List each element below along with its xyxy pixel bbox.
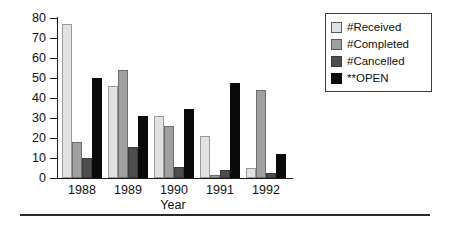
legend-label: #Completed bbox=[347, 39, 409, 51]
bar-completed-1991 bbox=[210, 175, 220, 178]
chart-page: 01020304050607080 19881989199019911992 Y… bbox=[0, 0, 450, 226]
bar-open-1989 bbox=[138, 116, 148, 178]
bar-cancelled-1992 bbox=[266, 173, 276, 178]
legend-item-open[interactable]: **OPEN bbox=[331, 70, 431, 87]
legend-item-cancelled[interactable]: #Cancelled bbox=[331, 53, 431, 70]
legend-item-received[interactable]: #Received bbox=[331, 19, 431, 36]
bar-completed-1989 bbox=[118, 70, 128, 178]
legend-swatch-received-icon bbox=[331, 22, 342, 33]
legend-item-completed[interactable]: #Completed bbox=[331, 36, 431, 53]
bar-cancelled-1991 bbox=[220, 170, 230, 178]
x-axis-label-1992: 1992 bbox=[236, 183, 296, 197]
legend-label: #Cancelled bbox=[347, 56, 405, 68]
legend-swatch-completed-icon bbox=[331, 39, 342, 50]
bar-received-1989 bbox=[108, 86, 118, 178]
bar-received-1990 bbox=[154, 116, 164, 178]
legend-label: #Received bbox=[347, 22, 401, 34]
x-axis-title: Year bbox=[0, 198, 346, 212]
bar-completed-1988 bbox=[72, 142, 82, 178]
bar-cancelled-1989 bbox=[128, 147, 138, 178]
bar-open-1988 bbox=[92, 78, 102, 178]
bottom-divider-rule bbox=[20, 214, 430, 216]
bar-open-1990 bbox=[184, 109, 194, 178]
chart-legend: #Received#Completed#Cancelled**OPEN bbox=[325, 13, 432, 92]
bar-cancelled-1988 bbox=[82, 158, 92, 178]
legend-swatch-cancelled-icon bbox=[331, 56, 342, 67]
bar-cancelled-1990 bbox=[174, 167, 184, 178]
bar-received-1992 bbox=[246, 168, 256, 178]
bar-received-1988 bbox=[62, 24, 72, 178]
bar-open-1992 bbox=[276, 154, 286, 178]
bar-open-1991 bbox=[230, 83, 240, 178]
bar-received-1991 bbox=[200, 136, 210, 178]
legend-label: **OPEN bbox=[347, 73, 389, 85]
bar-completed-1990 bbox=[164, 126, 174, 178]
bar-completed-1992 bbox=[256, 90, 266, 178]
legend-swatch-open-icon bbox=[331, 73, 342, 84]
bar-chart-plot-area: 01020304050607080 19881989199019911992 Y… bbox=[0, 0, 450, 226]
